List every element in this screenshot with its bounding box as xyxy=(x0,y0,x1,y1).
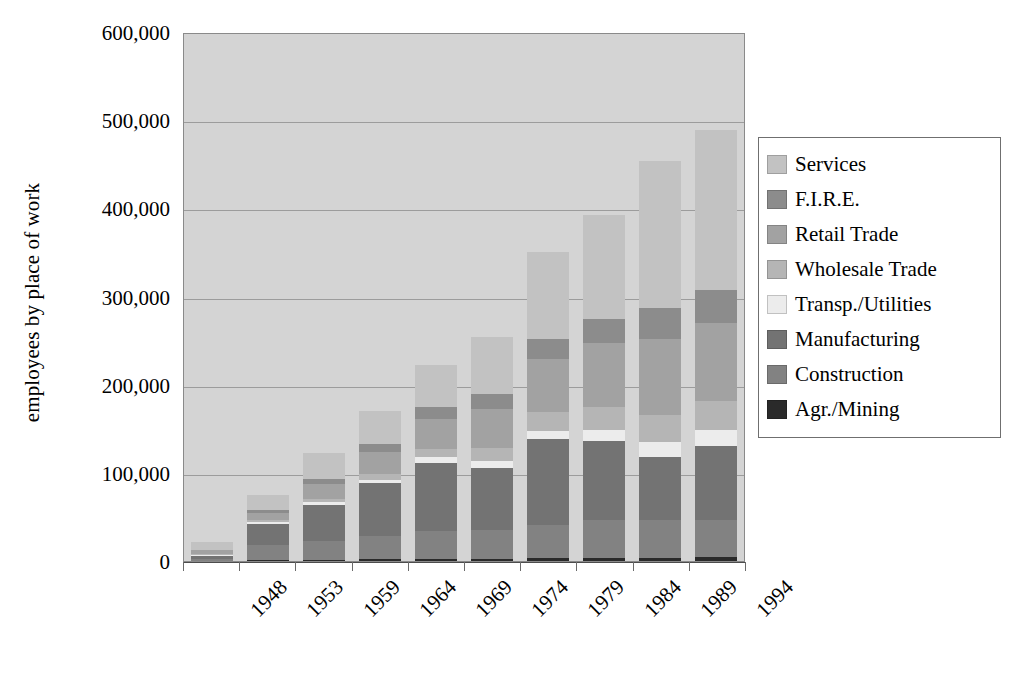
legend-item[interactable]: Wholesale Trade xyxy=(765,252,994,287)
bar-segment[interactable] xyxy=(303,541,346,560)
y-axis-ticks: 600,000500,000400,000300,000200,000100,0… xyxy=(58,33,170,563)
bar-group-1948[interactable] xyxy=(191,34,234,561)
bar-segment[interactable] xyxy=(471,394,514,409)
bar-group-1994[interactable] xyxy=(695,34,738,561)
bar-segment[interactable] xyxy=(695,290,738,323)
legend-item[interactable]: Construction xyxy=(765,357,994,392)
bar-group-1959[interactable] xyxy=(303,34,346,561)
bar-segment[interactable] xyxy=(303,484,346,499)
bar-segment[interactable] xyxy=(527,359,570,412)
bar-segment[interactable] xyxy=(471,559,514,561)
bar-segment[interactable] xyxy=(527,252,570,338)
bar-segment[interactable] xyxy=(415,365,458,407)
bar-segment[interactable] xyxy=(303,505,346,541)
bar-group-1964[interactable] xyxy=(359,34,402,561)
legend-swatch-icon xyxy=(767,400,787,419)
bar-segment[interactable] xyxy=(415,559,458,561)
bar-segment[interactable] xyxy=(247,560,290,561)
bar-segment[interactable] xyxy=(583,343,626,406)
bar-segment[interactable] xyxy=(583,558,626,561)
legend-swatch-icon xyxy=(767,190,787,209)
bar-segment[interactable] xyxy=(247,513,290,521)
bar-group-1984[interactable] xyxy=(583,34,626,561)
x-axis-tick-label: 1974 xyxy=(526,575,573,622)
bar-group-1953[interactable] xyxy=(247,34,290,561)
bar-segment[interactable] xyxy=(527,339,570,359)
bar-segment[interactable] xyxy=(639,415,682,442)
bar-segment[interactable] xyxy=(471,530,514,559)
bar-segment[interactable] xyxy=(583,430,626,441)
legend-item[interactable]: Transp./Utilities xyxy=(765,287,994,322)
bar-segment[interactable] xyxy=(415,531,458,558)
bar-segment[interactable] xyxy=(527,412,570,431)
bar-segment[interactable] xyxy=(583,520,626,558)
bar-segment[interactable] xyxy=(247,524,290,545)
bar-segment[interactable] xyxy=(303,560,346,561)
bar-group-1989[interactable] xyxy=(639,34,682,561)
bar-segment[interactable] xyxy=(583,215,626,319)
bar-segment[interactable] xyxy=(695,446,738,521)
legend-swatch-icon xyxy=(767,260,787,279)
bar-segment[interactable] xyxy=(303,453,346,479)
bar-segment[interactable] xyxy=(639,308,682,340)
legend-label: Services xyxy=(795,154,866,175)
bar-segment[interactable] xyxy=(695,323,738,401)
bar-segment[interactable] xyxy=(359,536,402,559)
bar-segment[interactable] xyxy=(527,525,570,559)
x-axis-tick-mark xyxy=(239,562,240,571)
bar-group-1974[interactable] xyxy=(471,34,514,561)
legend-label: Manufacturing xyxy=(795,329,920,350)
legend-item[interactable]: F.I.R.E. xyxy=(765,182,994,217)
stacked-bar-chart: employees by place of work 600,000500,00… xyxy=(0,0,1013,680)
bars-layer xyxy=(184,34,744,561)
bar-segment[interactable] xyxy=(639,457,682,520)
bar-segment[interactable] xyxy=(359,411,402,444)
bar-segment[interactable] xyxy=(471,409,514,448)
legend-item[interactable]: Agr./Mining xyxy=(765,392,994,427)
bar-segment[interactable] xyxy=(359,444,402,452)
bar-segment[interactable] xyxy=(247,495,290,510)
legend-label: F.I.R.E. xyxy=(795,189,860,210)
bar-segment[interactable] xyxy=(527,439,570,525)
bar-segment[interactable] xyxy=(639,558,682,561)
bar-segment[interactable] xyxy=(639,339,682,415)
bar-segment[interactable] xyxy=(639,520,682,558)
bar-segment[interactable] xyxy=(415,419,458,449)
bar-segment[interactable] xyxy=(527,431,570,440)
bar-segment[interactable] xyxy=(695,130,738,290)
bar-segment[interactable] xyxy=(191,542,234,550)
bar-segment[interactable] xyxy=(695,430,738,446)
bar-segment[interactable] xyxy=(639,161,682,307)
bar-segment[interactable] xyxy=(359,483,402,536)
bar-segment[interactable] xyxy=(583,441,626,520)
bar-group-1979[interactable] xyxy=(527,34,570,561)
bar-segment[interactable] xyxy=(247,545,290,560)
legend-item[interactable]: Manufacturing xyxy=(765,322,994,357)
bar-group-1969[interactable] xyxy=(415,34,458,561)
bar-segment[interactable] xyxy=(359,452,402,474)
plot-area xyxy=(183,33,745,562)
bar-segment[interactable] xyxy=(415,449,458,458)
bar-segment[interactable] xyxy=(471,337,514,394)
bar-segment[interactable] xyxy=(639,442,682,456)
x-axis-tick-label: 1994 xyxy=(751,575,798,622)
bar-segment[interactable] xyxy=(695,520,738,557)
legend-label: Transp./Utilities xyxy=(795,294,931,315)
bar-segment[interactable] xyxy=(583,407,626,430)
bar-segment[interactable] xyxy=(415,407,458,418)
legend-item[interactable]: Services xyxy=(765,147,994,182)
x-axis-tick-label: 1948 xyxy=(245,575,292,622)
bar-segment[interactable] xyxy=(471,448,514,461)
bar-segment[interactable] xyxy=(415,463,458,532)
legend-item[interactable]: Retail Trade xyxy=(765,217,994,252)
x-axis-tick-mark xyxy=(464,562,465,571)
bar-segment[interactable] xyxy=(359,559,402,561)
bar-segment[interactable] xyxy=(695,557,738,561)
bar-segment[interactable] xyxy=(695,401,738,430)
bar-segment[interactable] xyxy=(583,319,626,344)
bar-segment[interactable] xyxy=(471,461,514,468)
x-axis-tick-mark xyxy=(576,562,577,571)
bar-segment[interactable] xyxy=(471,468,514,530)
legend-label: Agr./Mining xyxy=(795,399,899,420)
bar-segment[interactable] xyxy=(527,558,570,561)
